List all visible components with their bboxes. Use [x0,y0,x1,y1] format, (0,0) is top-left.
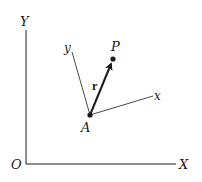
point-A-dot [87,112,92,117]
global-x-axis-label: X [178,157,189,172]
point-P-dot [110,56,115,61]
local-y-axis-label: y [63,41,71,55]
point-P-label: P [110,39,120,54]
local-x-axis [90,96,153,115]
global-y-axis-label: Y [20,14,30,29]
diagram-canvas: Y X O y x r A P [0,0,202,182]
diagram-svg: Y X O y x r A P [0,0,202,182]
point-A-label: A [80,120,90,135]
vector-r-label: r [92,79,98,93]
global-origin-label: O [11,157,22,172]
local-x-axis-label: x [154,89,161,103]
local-y-axis [72,52,90,115]
